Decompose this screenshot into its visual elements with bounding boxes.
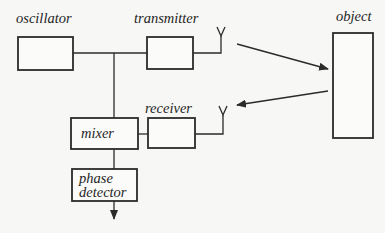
transmitter-label: transmitter [134, 10, 199, 26]
transmitter-block: transmitter [134, 10, 199, 69]
receiver-label: receiver [145, 100, 192, 116]
transmit-antenna-icon [193, 27, 225, 53]
receiver-block: receiver [145, 100, 195, 148]
mixer-block: mixer [71, 118, 138, 149]
object-block: object [333, 8, 373, 138]
object-label: object [336, 8, 372, 24]
oscillator-block: oscillator [16, 10, 73, 70]
arrow-to-object [237, 44, 328, 69]
phase-detector-block: phase detector [72, 169, 137, 201]
block-diagram: oscillator transmitter object receiver m… [0, 0, 385, 233]
receive-antenna-icon [195, 106, 227, 134]
phase-detector-label-line2: detector [79, 184, 127, 200]
mixer-label: mixer [81, 125, 114, 141]
oscillator-label: oscillator [16, 10, 72, 26]
arrow-from-object [237, 91, 328, 105]
